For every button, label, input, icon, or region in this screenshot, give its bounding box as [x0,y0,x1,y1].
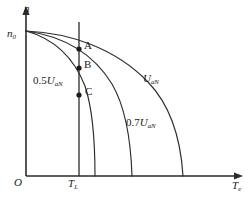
torque-axis [26,172,243,179]
curve-label-rated: UaN [143,73,159,84]
curve-label-07-subscript: aN [148,122,156,129]
point-a-label: A [84,40,92,51]
operating-point-b [76,65,81,70]
origin-label: O [14,177,22,188]
curve-label-05-subscript: aN [55,80,63,87]
speed-axis-label: n [24,3,30,14]
load-torque-label: TL [68,178,78,189]
no-load-speed-base: n [7,27,13,39]
no-load-speed-label: n0 [7,28,16,39]
no-load-speed-subscript: 0 [13,33,16,40]
curve-label-rated-subscript: aN [151,78,159,85]
diagram-canvas [0,0,252,200]
point-c-label: C [85,86,92,97]
curve-label-05-coefficient: 0.5 [33,74,47,86]
operating-point-c [76,92,81,97]
torque-axis-label: Te [232,180,241,191]
curve-05-rated-voltage [26,31,95,176]
curve-label-07-rated: 0.7UaN [126,117,156,128]
curve-label-rated-base: U [143,72,151,84]
curve-label-07-coefficient: 0.7 [126,116,140,128]
curve-label-07-base: U [140,116,148,128]
torque-axis-subscript: e [238,185,241,192]
curve-label-05-base: U [47,74,55,86]
curve-rated-voltage [26,31,183,176]
point-b-label: B [84,59,91,70]
load-torque-subscript: L [74,183,78,190]
curve-label-05-rated: 0.5UaN [33,75,63,86]
speed-torque-diagram: n n0 O TL Te A B C 0.5UaN 0.7UaN UaN [0,0,252,200]
operating-point-a [76,46,81,51]
